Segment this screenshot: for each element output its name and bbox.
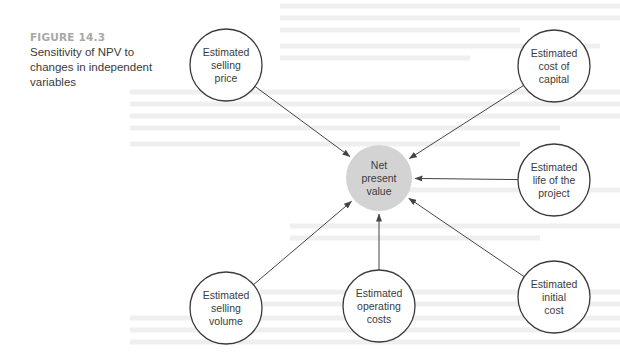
node-label-selling-volume: Estimated selling volume: [190, 272, 262, 344]
arrow-life-of-project-to-npv: [415, 178, 518, 179]
arrow-selling-price-to-npv: [255, 86, 350, 156]
node-label-initial-cost: Estimated initial cost: [518, 261, 590, 333]
arrow-cost-of-capital-to-npv: [409, 85, 523, 158]
node-label-cost-of-capital: Estimated cost of capital: [518, 30, 590, 102]
node-label-npv: Net present value: [346, 145, 412, 211]
arrow-initial-cost-to-npv: [409, 198, 524, 277]
arrow-selling-volume-to-npv: [253, 201, 351, 284]
node-label-selling-price: Estimated selling price: [190, 29, 262, 101]
node-label-operating-costs: Estimated operating costs: [343, 270, 415, 342]
node-label-life-of-project: Estimated life of the project: [518, 144, 590, 216]
